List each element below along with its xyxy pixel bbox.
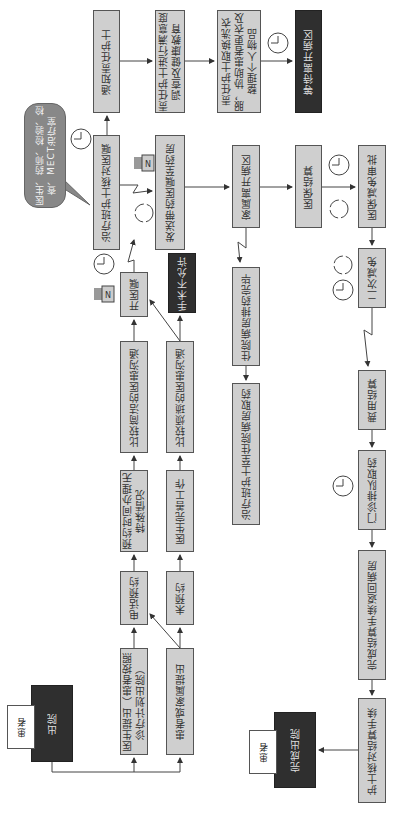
nurse-verify-box: 护士核对结算手续 — [358, 698, 386, 803]
box-label: 电话预约 — [128, 576, 141, 620]
phone-booking-box: 电话预约 — [120, 571, 148, 625]
box-label: 费用结算 — [366, 378, 379, 422]
box-label: 责任护士取换洗衣服，协助患者更衣及整理个人物品 — [220, 11, 259, 112]
notify-nurse-box: 通知责任护士 — [93, 10, 120, 113]
wait-leave-box: 等待离开病区 — [295, 10, 322, 113]
cycle-icon — [332, 254, 354, 276]
no-booking-box: 未预约 — [166, 571, 194, 625]
svg-text:N: N — [145, 160, 151, 169]
callout-text: 医生、药师、检验、检查、MECT治疗室 — [33, 104, 57, 207]
discharge-box: 出院 — [31, 685, 73, 762]
complex-communication-box: 比较烦琐的医患沟通 — [166, 341, 194, 453]
box-label: 未预约 — [174, 582, 187, 615]
surgery-not-allowed-box: 手术不允许 — [168, 253, 196, 313]
box-label: 医保减免审批 — [366, 154, 379, 220]
family-leave-box: 家属离开病区 — [232, 145, 260, 228]
box-label: 治疗班护士至住院病房取药 — [240, 388, 253, 520]
box-label: 住院病房排药完毕 — [240, 273, 253, 361]
responsible-parties-callout: 医生、药师、检验、检查、MECT治疗室 — [24, 103, 66, 208]
printer-icon: N — [93, 283, 115, 305]
check-order-box: 治疗班护士核对医嘱 — [93, 135, 120, 250]
box-label: 预约时间办理无特殊情况 — [121, 471, 147, 551]
complete-return-box: 完成结算手续返回病房 — [358, 550, 386, 680]
box-label: 完成结算手续返回病房 — [366, 560, 379, 670]
patient-end-banner: 患者 — [249, 730, 277, 774]
clock-icon — [328, 154, 350, 176]
box-label: 医保结算 — [302, 165, 315, 209]
svg-text:N: N — [105, 291, 111, 300]
doctor-propose-box: 医生提出（患者按照诊疗计划出院） — [120, 648, 148, 755]
cycle-icon — [328, 198, 350, 220]
change-clothes-box: 责任护士取换洗衣服，协助患者更衣及整理个人物品 — [217, 10, 261, 113]
complete-discharge-box: 完成出院 — [274, 712, 316, 788]
clock-icon — [332, 279, 354, 301]
cycle-icon — [133, 202, 155, 224]
box-label: 护士核对结算手续 — [366, 707, 379, 795]
box-label: 患者或家属提出 — [174, 663, 187, 740]
box-label: 完成出院 — [289, 728, 302, 772]
box-label: 发送带药医嘱至药房 — [164, 143, 177, 242]
ward-dispense-box: 住院病房排药完毕 — [232, 267, 260, 366]
box-label: 治疗班护士核对医嘱 — [100, 143, 113, 242]
clock-icon — [70, 128, 92, 150]
box-label: 手术不允许 — [176, 256, 189, 311]
box-label: 医生完善工作 — [174, 478, 187, 544]
banner-label: 患者 — [15, 717, 28, 737]
outpatient-pickup-box: 门诊排队取药 — [358, 450, 386, 530]
box-label: 比较简洁的医患沟通 — [128, 348, 141, 447]
patient-start-banner: 患者 — [7, 705, 35, 749]
simple-communication-box: 比较简洁的医患沟通 — [120, 341, 148, 453]
scheduled-normal-box: 预约时间办理无特殊情况 — [120, 470, 148, 552]
box-label: 通知责任护士 — [100, 29, 113, 95]
send-order-box: 发送带药医嘱至药房 — [155, 135, 185, 250]
box-label: 门诊排队取药 — [366, 457, 379, 523]
clock-icon — [267, 32, 289, 54]
box-label: 二次减免 — [366, 256, 379, 300]
open-order-box: 开医嘱 — [120, 272, 148, 317]
nurse-fetch-box: 治疗班护士至住院病房取药 — [232, 383, 260, 525]
patient-propose-box: 患者或家属提出 — [166, 648, 194, 755]
second-reduction-box: 二次减免 — [358, 248, 386, 308]
box-label: 比较烦琐的医患沟通 — [174, 348, 187, 447]
box-label: 医生提出（患者按照诊疗计划出院） — [121, 649, 147, 754]
clock-icon — [332, 475, 354, 497]
doctor-complete-box: 医生完善工作 — [166, 470, 194, 552]
box-label: 出院 — [46, 713, 59, 735]
box-label: 家属离开病区 — [240, 154, 253, 220]
box-label: 等待离开病区 — [302, 29, 315, 95]
clock-icon — [93, 253, 115, 275]
fee-settle-box: 费用结算 — [358, 370, 386, 430]
banner-label: 患者 — [257, 742, 270, 762]
insurance-settle-box: 医保结算 — [295, 145, 322, 228]
insurance-review-box: 医保减免审批 — [358, 145, 386, 228]
box-label: 责任护士进行满意度调查及健康教育 — [157, 11, 183, 112]
printer-icon: N — [133, 152, 155, 174]
box-label: 开医嘱 — [128, 278, 141, 311]
survey-box: 责任护士进行满意度调查及健康教育 — [155, 10, 185, 113]
